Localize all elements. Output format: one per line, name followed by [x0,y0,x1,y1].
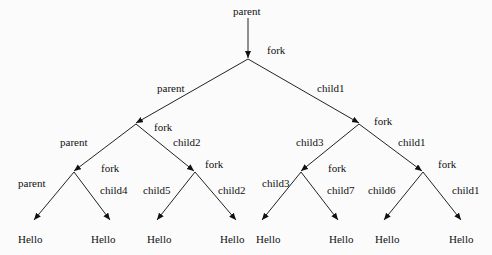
edge-label: child1 [452,184,480,196]
edge-label: child5 [143,184,171,196]
edge-label: fork [328,162,346,174]
edge-label: fork [101,162,119,174]
edge-label: child2 [218,184,246,196]
tree-edges [0,0,492,255]
edge-label: child1 [317,82,345,94]
edge-label: child6 [368,184,396,196]
edge-label: fork [267,44,285,56]
leaf-output-label: Hello [329,233,353,245]
edge-label: fork [438,158,456,170]
leaf-output-label: Hello [91,233,115,245]
edge-label: child3 [262,177,290,189]
leaf-output-label: Hello [220,233,244,245]
edge-label: fork [205,158,223,170]
leaf-output-label: Hello [449,233,473,245]
fork-tree-diagram: parent forkparentchild1forkforkparentchi… [0,0,492,255]
leaf-output-label: Hello [18,233,42,245]
edge-label: child1 [398,136,426,148]
edge-label: parent [18,177,45,189]
edge-label: parent [60,136,87,148]
leaf-output-label: Hello [375,233,399,245]
edge-label: fork [374,115,392,127]
root-label: parent [233,5,260,17]
edge-label: parent [157,82,184,94]
edge-label: child4 [100,184,128,196]
edge-label: child2 [173,136,201,148]
leaf-output-label: Hello [256,233,280,245]
edge-label: child3 [296,136,324,148]
edge-label: fork [154,121,172,133]
leaf-output-label: Hello [147,233,171,245]
edge-label: child7 [327,184,355,196]
